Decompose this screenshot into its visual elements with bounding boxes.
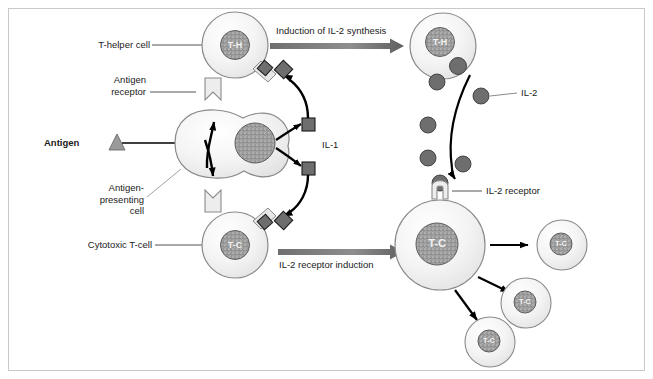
il1-molecule-bound-upper <box>274 60 292 78</box>
label-induction-il2-synthesis: Induction of IL-2 synthesis <box>276 25 386 37</box>
cell-marker-label: T-C <box>483 336 496 345</box>
cell-t-helper-resting: T-H <box>202 12 276 100</box>
immunology-diagram: T-H T-C <box>0 0 653 379</box>
label-antigen: Antigen <box>44 137 79 149</box>
cell-marker-label: T-C <box>428 237 446 249</box>
cell-cytotoxic-daughter-3: T-C <box>465 317 515 367</box>
cell-marker-label: T-H <box>228 40 243 50</box>
label-t-helper-cell: T-helper cell <box>56 39 150 51</box>
label-il-2: IL-2 <box>521 87 537 99</box>
il2-molecule <box>473 88 489 104</box>
il2-stream-arrowhead <box>452 168 455 179</box>
cell-marker-label: T-C <box>555 239 568 248</box>
cell-cytotoxic-activated: T-C <box>395 181 485 290</box>
il2-molecule <box>420 150 436 166</box>
antigen-receptor-icon <box>205 78 221 100</box>
il1-molecule <box>302 118 315 131</box>
cell-t-helper-activated: T-H <box>410 13 476 79</box>
label-antigen-presenting-cell: Antigen- presenting cell <box>58 182 144 217</box>
cell-antigen-presenting <box>175 110 301 178</box>
antigen-receptor-icon <box>205 190 221 212</box>
cell-marker-label: T-C <box>519 297 532 306</box>
il2-molecule <box>429 74 445 90</box>
cell-cytotoxic-daughter-1: T-C <box>537 220 587 270</box>
cell-marker-label: T-H <box>433 37 448 47</box>
label-il-1: IL-1 <box>322 139 338 151</box>
process-arrow-induction-il2-synthesis <box>270 39 404 54</box>
cell-nucleus <box>235 123 275 163</box>
il2-stream <box>420 74 517 191</box>
label-il-2-receptor: IL-2 receptor <box>486 185 540 197</box>
label-antigen-receptor: Antigen receptor <box>56 74 146 97</box>
il2-molecule <box>455 156 471 172</box>
antigen-triangle-icon <box>109 134 125 150</box>
cell-marker-label: T-C <box>228 240 243 250</box>
il1-path-to-cytotoxic <box>290 175 308 212</box>
il2-granule <box>450 58 467 75</box>
leader-line-il2 <box>490 93 517 96</box>
il1-molecule <box>302 162 315 175</box>
process-arrow-il2-receptor-induction <box>278 245 404 260</box>
cell-cytotoxic-resting: T-C <box>202 190 276 278</box>
cell-cytotoxic-daughter-2: T-C <box>501 278 551 328</box>
il2-molecule <box>420 117 436 133</box>
label-cytotoxic-t-cell: Cytotoxic T-cell <box>52 239 152 251</box>
label-il2-receptor-induction: IL-2 receptor induction <box>279 259 374 271</box>
il2-stream-path <box>451 75 470 168</box>
proliferation-arrow-3 <box>455 290 477 320</box>
il1-molecule-bound-lower <box>274 211 292 229</box>
il1-path-to-t-helper <box>290 80 308 118</box>
leader-line-apc <box>147 169 181 197</box>
